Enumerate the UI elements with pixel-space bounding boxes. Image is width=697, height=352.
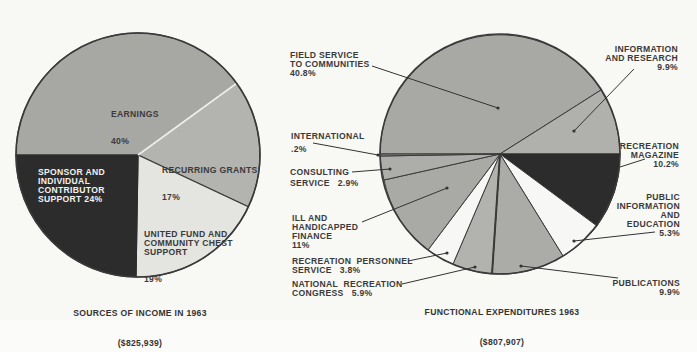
label-ill-handicapped: ILL AND HANDICAPPED FINANCE 11% (292, 214, 358, 250)
label-united-name: UNITED FUND AND COMMUNITY CHEST SUPPORT (144, 230, 233, 257)
label-consulting-pct: SERVICE 2.9% (290, 179, 359, 188)
label-grants-name: RECURRING GRANTS (162, 166, 258, 175)
label-earnings-pct: 40% (111, 137, 159, 146)
label-sponsor: SPONSOR AND INDIVIDUAL CONTRIBUTOR SUPPO… (38, 168, 105, 204)
income-caption: SOURCES OF INCOME IN 1963 ($825,939) (40, 288, 240, 352)
expenditures-caption-total: ($807,907) (412, 337, 592, 347)
label-earnings-name: EARNINGS (111, 110, 159, 119)
income-caption-total: ($825,939) (40, 338, 240, 348)
label-international: INTERNATIONAL (291, 132, 364, 141)
label-recreation-magazine: RECREATION MAGAZINE 10.2% (600, 142, 679, 169)
label-personnel: RECREATION PERSONNEL SERVICE 3.8% (292, 257, 413, 275)
label-information-research: INFORMATION AND RESEARCH 9.9% (600, 45, 678, 72)
label-field-service: FIELD SERVICE TO COMMUNITIES 40.8% (290, 51, 369, 78)
label-publications: PUBLICATIONS 9.9% (600, 279, 680, 297)
expenditures-caption-title: FUNCTIONAL EXPENDITURES 1963 (412, 307, 592, 317)
label-congress: NATIONAL RECREATION CONGRESS 5.9% (292, 280, 403, 298)
income-caption-title: SOURCES OF INCOME IN 1963 (40, 308, 240, 318)
label-recurring-grants: RECURRING GRANTS 17% (162, 148, 258, 220)
label-earnings: EARNINGS 40% (111, 92, 159, 164)
label-international-pct: .2% (291, 145, 307, 154)
label-consulting: CONSULTING (290, 168, 349, 177)
expenditures-caption: FUNCTIONAL EXPENDITURES 1963 ($807,907) (412, 287, 592, 352)
label-public-information: PUBLIC INFORMATION AND EDUCATION 5.3% (600, 193, 680, 238)
label-grants-pct: 17% (162, 193, 258, 202)
label-united-pct: 19% (144, 275, 233, 284)
